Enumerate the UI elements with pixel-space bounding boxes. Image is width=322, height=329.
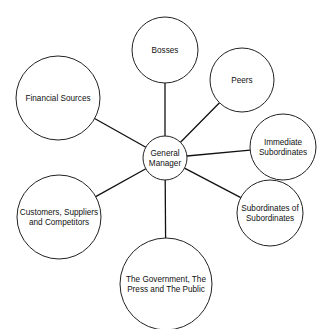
node-label: Press and The Public xyxy=(127,285,205,294)
node-label: The Government, The xyxy=(126,275,206,284)
nodes: BossesPeersImmediateSubordinatesSubordin… xyxy=(16,17,316,329)
node-circle xyxy=(143,136,187,180)
node-circle xyxy=(250,114,316,180)
node-label: Subordinates xyxy=(259,148,307,157)
node-financial-sources: Financial Sources xyxy=(16,56,100,140)
edge-customers-suppliers-competitors xyxy=(96,169,146,197)
node-label: Bosses xyxy=(152,46,179,55)
node-label: and Competitors xyxy=(29,218,89,227)
node-subordinates-of-subordinates: Subordinates ofSubordinates xyxy=(237,180,303,246)
stakeholder-diagram: BossesPeersImmediateSubordinatesSubordin… xyxy=(0,0,322,329)
node-label: Manager xyxy=(149,159,182,168)
node-customers-suppliers-competitors: Customers, Suppliersand Competitors xyxy=(17,175,101,259)
node-circle xyxy=(237,180,303,246)
node-label: Immediate xyxy=(264,138,303,147)
node-circle xyxy=(17,175,101,259)
node-government-press-public: The Government, ThePress and The Public xyxy=(120,238,212,329)
node-label: General xyxy=(150,149,179,158)
edge-immediate-subordinates xyxy=(187,150,250,156)
node-bosses: Bosses xyxy=(132,17,198,83)
node-label: Customers, Suppliers xyxy=(20,208,98,217)
node-label: Subordinates xyxy=(246,214,294,223)
edge-peers xyxy=(181,103,220,143)
node-peers: Peers xyxy=(210,48,274,112)
node-label: Financial Sources xyxy=(25,94,90,103)
node-general-manager: GeneralManager xyxy=(143,136,187,180)
node-immediate-subordinates: ImmediateSubordinates xyxy=(250,114,316,180)
node-label: Subordinates of xyxy=(241,204,299,213)
edge-subordinates-of-subordinates xyxy=(185,168,241,198)
node-label: Peers xyxy=(231,76,252,85)
edge-financial-sources xyxy=(95,119,146,148)
